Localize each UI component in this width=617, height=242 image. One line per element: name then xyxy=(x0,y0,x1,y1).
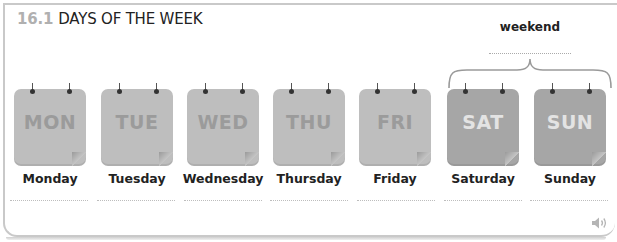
page-curl-icon xyxy=(159,152,173,166)
day-label: Saturday xyxy=(437,171,529,186)
section-number: 16.1 xyxy=(17,10,53,28)
page-curl-icon xyxy=(592,152,606,166)
binder-ring-icon xyxy=(240,83,245,96)
calendar-card: TUE xyxy=(101,89,173,166)
weekend-label: weekend xyxy=(500,20,560,34)
page-title: 16.1DAYS OF THE WEEK xyxy=(17,10,202,28)
page-curl-icon xyxy=(417,152,431,166)
day-label: Thursday xyxy=(263,171,355,186)
calendar-card: WED xyxy=(187,89,259,166)
binder-ring-icon xyxy=(67,83,72,96)
binder-ring-icon xyxy=(154,83,159,96)
day-label: Tuesday xyxy=(91,171,183,186)
binder-ring-icon xyxy=(375,83,380,96)
calendar-card: FRI xyxy=(359,89,431,166)
day-label: Monday xyxy=(4,171,96,186)
day-abbreviation: THU xyxy=(273,111,345,133)
day-abbreviation: SUN xyxy=(534,111,606,133)
speaker-icon[interactable] xyxy=(591,216,609,230)
day-abbreviation: TUE xyxy=(101,111,173,133)
day-abbreviation: MON xyxy=(14,111,86,133)
binder-ring-icon xyxy=(500,83,505,96)
page-curl-icon xyxy=(331,152,345,166)
binder-ring-icon xyxy=(587,83,592,96)
page-curl-icon xyxy=(72,152,86,166)
binder-ring-icon xyxy=(463,83,468,96)
answer-line-sunday[interactable] xyxy=(530,200,608,201)
day-abbreviation: WED xyxy=(187,111,259,133)
day-label: Sunday xyxy=(524,171,616,186)
calendar-card: MON xyxy=(14,89,86,166)
day-label: Friday xyxy=(349,171,441,186)
binder-ring-icon xyxy=(117,83,122,96)
answer-line-tuesday[interactable] xyxy=(97,200,175,201)
calendar-card: THU xyxy=(273,89,345,166)
page-curl-icon xyxy=(245,152,259,166)
calendar-card: SAT xyxy=(447,89,519,166)
binder-ring-icon xyxy=(550,83,555,96)
answer-line-wednesday[interactable] xyxy=(184,200,262,201)
binder-ring-icon xyxy=(203,83,208,96)
answer-line-saturday[interactable] xyxy=(444,200,522,201)
day-abbreviation: SAT xyxy=(447,111,519,133)
weekend-answer-line[interactable] xyxy=(489,53,571,54)
binder-ring-icon xyxy=(412,83,417,96)
binder-ring-icon xyxy=(289,83,294,96)
calendar-card: SUN xyxy=(534,89,606,166)
answer-line-thursday[interactable] xyxy=(270,200,348,201)
answer-line-monday[interactable] xyxy=(10,200,88,201)
day-label: Wednesday xyxy=(177,171,269,186)
answer-line-friday[interactable] xyxy=(357,200,435,201)
section-title: DAYS OF THE WEEK xyxy=(58,10,202,28)
day-abbreviation: FRI xyxy=(359,111,431,133)
page-curl-icon xyxy=(505,152,519,166)
binder-ring-icon xyxy=(30,83,35,96)
panel-shadow xyxy=(6,237,606,240)
binder-ring-icon xyxy=(326,83,331,96)
